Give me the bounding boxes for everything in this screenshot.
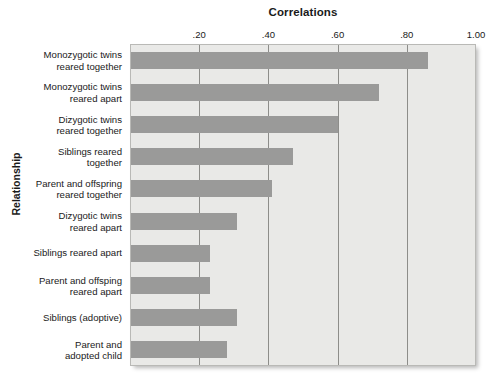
bar-5 — [130, 213, 237, 230]
bar-8 — [130, 309, 237, 326]
x-tick-label-2: .60 — [331, 29, 344, 40]
y-label-6: Siblings reared apart — [0, 248, 122, 259]
y-label-8: Siblings (adoptive) — [0, 312, 122, 323]
y-label-line: reared apart — [0, 221, 122, 232]
x-tick-label-0: .20 — [193, 29, 206, 40]
y-label-line: Monozygotic twins — [0, 81, 122, 92]
bar-0 — [130, 52, 428, 69]
y-label-1: Monozygotic twinsreared apart — [0, 81, 122, 104]
y-label-5: Dizygotic twinsreared apart — [0, 210, 122, 233]
bar-4 — [130, 180, 272, 197]
y-label-line: adopted child — [0, 350, 122, 361]
y-label-line: Siblings reared — [0, 145, 122, 156]
bar-3 — [130, 148, 293, 165]
y-label-0: Monozygotic twinsreared together — [0, 49, 122, 72]
x-tick-label-4: 1.00 — [467, 29, 486, 40]
x-tick-label-3: .80 — [400, 29, 413, 40]
y-label-7: Parent and offspingreared apart — [0, 274, 122, 297]
y-label-line: reared apart — [0, 286, 122, 297]
bar-7 — [130, 277, 210, 294]
y-label-3: Siblings rearedtogether — [0, 145, 122, 168]
gridline-3 — [407, 44, 408, 366]
bar-6 — [130, 245, 210, 262]
x-axis-tick-labels: .20.40.60.801.00 — [0, 29, 495, 43]
y-label-line: reared together — [0, 60, 122, 71]
y-label-line: Parent and offsping — [0, 274, 122, 285]
y-label-line: Parent and — [0, 338, 122, 349]
y-label-line: Dizygotic twins — [0, 113, 122, 124]
y-label-line: Dizygotic twins — [0, 210, 122, 221]
y-label-line: reared together — [0, 125, 122, 136]
y-label-line: Parent and offspring — [0, 177, 122, 188]
bar-2 — [130, 116, 338, 133]
y-label-line: reared apart — [0, 92, 122, 103]
plot-area — [130, 44, 476, 366]
y-label-line: Siblings reared apart — [0, 248, 122, 259]
bar-9 — [130, 341, 227, 358]
y-label-line: reared together — [0, 189, 122, 200]
chart-title: Correlations — [130, 6, 476, 18]
bar-1 — [130, 84, 379, 101]
y-label-2: Dizygotic twinsreared together — [0, 113, 122, 136]
x-tick-label-1: .40 — [262, 29, 275, 40]
y-axis-category-labels: Monozygotic twinsreared togetherMonozygo… — [0, 44, 126, 366]
correlation-bar-chart: Correlations Relationship .20.40.60.801.… — [0, 0, 495, 378]
y-label-9: Parent andadopted child — [0, 338, 122, 361]
y-label-line: Monozygotic twins — [0, 49, 122, 60]
y-label-line: together — [0, 157, 122, 168]
y-label-4: Parent and offspringreared together — [0, 177, 122, 200]
y-label-line: Siblings (adoptive) — [0, 312, 122, 323]
